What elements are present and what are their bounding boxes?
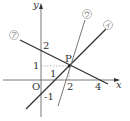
y-tick-neg1: -1 bbox=[44, 91, 54, 102]
line-c-label: ウ bbox=[84, 10, 90, 17]
point-p-label: P bbox=[65, 53, 72, 64]
y-axis-arrow-icon bbox=[39, 3, 43, 9]
x-tick-4: 4 bbox=[95, 81, 101, 92]
coordinate-diagram: ア イ ウ P y x O 2 4 1 2 -1 1 bbox=[0, 0, 130, 121]
line-a-label: ア bbox=[11, 31, 17, 38]
y-tick-2: 2 bbox=[43, 40, 49, 51]
x-tick-2: 2 bbox=[67, 81, 73, 92]
point-p bbox=[68, 65, 71, 68]
x-intercept-label-1: 1 bbox=[50, 68, 56, 79]
x-axis-label: x bbox=[116, 79, 122, 90]
y-axis-label: y bbox=[32, 0, 39, 10]
line-b-label: イ bbox=[105, 21, 111, 28]
origin-label: O bbox=[32, 81, 40, 92]
y-tick-1: 1 bbox=[33, 60, 39, 71]
